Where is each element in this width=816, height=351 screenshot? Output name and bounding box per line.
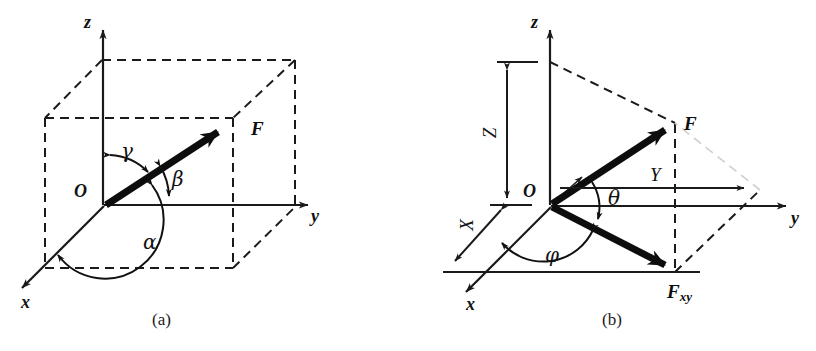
force-decomposition-figure — [0, 0, 816, 351]
panel-b-axis-y-label: y — [791, 208, 799, 229]
panel-b-component-y-label: Y — [650, 164, 661, 186]
panel-b-angle-phi-label: φ — [545, 243, 559, 267]
axis-x-line — [22, 206, 104, 288]
panel-b-axis-x-label: x — [466, 294, 475, 315]
panel-b-caption: (b) — [602, 310, 622, 330]
panel-a-axis-x-label: x — [21, 292, 30, 313]
panel-b-force-label: F — [684, 113, 697, 135]
panel-a-caption: (a) — [152, 310, 171, 330]
box-edge-bottom-right — [233, 207, 295, 268]
panel-a-angle-gamma-label: γ — [121, 139, 133, 163]
dimension-X-arrow-line — [455, 210, 501, 261]
projection-label-base: F — [667, 281, 680, 302]
box-edge-back-right — [233, 60, 295, 118]
panel-b-diagram — [443, 30, 786, 292]
panel-b-component-z-label: Z — [479, 128, 501, 139]
panel-a-angle-alpha-label: α — [143, 230, 157, 254]
dash-Fxy-to-y-plane — [675, 190, 760, 272]
panel-a-origin-label: O — [74, 181, 87, 202]
projection-label-subscript: xy — [680, 289, 692, 304]
dimension-line-X — [455, 210, 501, 261]
panel-a-axes — [22, 30, 308, 288]
panel-b-axis-z-label: z — [531, 12, 538, 33]
dash-z-top-to-F — [550, 62, 675, 123]
box-edge-back-left — [45, 60, 102, 118]
panel-b-angle-theta-label: θ — [608, 186, 620, 210]
panel-a-angle-beta-label: β — [172, 167, 184, 191]
panel-b-origin-label: O — [523, 181, 536, 202]
panel-a-diagram — [22, 30, 308, 288]
panel-b-component-x-label: X — [456, 219, 478, 231]
panel-a-axis-z-label: z — [84, 12, 91, 33]
panel-a-axis-y-label: y — [311, 206, 319, 227]
panel-b-projection-label: Fxy — [667, 281, 692, 305]
panel-a-force-label: F — [251, 118, 264, 140]
